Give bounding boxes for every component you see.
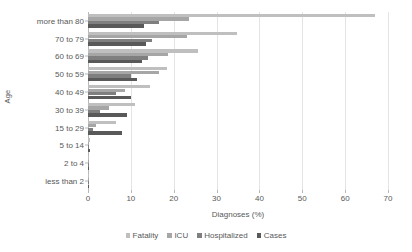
x-axis-tick-label: 30 — [212, 194, 221, 203]
x-axis-tick-label: 50 — [298, 194, 307, 203]
x-axis-tick — [388, 190, 389, 193]
category-row: 30 to 39 — [88, 101, 388, 119]
legend-item-label: Cases — [264, 231, 287, 240]
bar — [88, 24, 144, 27]
legend-swatch-icon — [167, 233, 172, 238]
x-axis-tick — [259, 190, 260, 193]
x-axis-tick — [217, 190, 218, 193]
legend-item-label: Fatality — [133, 231, 159, 240]
category-row: less than 2 — [88, 172, 388, 190]
bar — [88, 96, 131, 99]
y-axis-tick-label: 60 to 69 — [55, 52, 84, 61]
bar — [88, 60, 142, 63]
legend-swatch-icon — [126, 233, 131, 238]
legend-swatch-icon — [197, 233, 202, 238]
legend-item-label: Hospitalized — [204, 231, 248, 240]
x-axis: 010203040506070 — [88, 190, 388, 196]
chart-legend: FatalityICUHospitalizedCases — [0, 231, 412, 240]
bar — [88, 42, 146, 45]
legend-item[interactable]: ICU — [167, 231, 188, 240]
category-row: more than 80 — [88, 12, 388, 30]
legend-item[interactable]: Fatality — [126, 231, 159, 240]
category-row: 50 to 59 — [88, 65, 388, 83]
bar — [88, 78, 137, 81]
y-axis-tick-label: 2 to 4 — [64, 159, 84, 168]
category-row: 70 to 79 — [88, 30, 388, 48]
legend-item[interactable]: Cases — [257, 231, 287, 240]
x-axis-title: Diagnoses (%) — [88, 210, 388, 219]
legend-item[interactable]: Hospitalized — [197, 231, 248, 240]
y-axis-tick-label: 30 to 39 — [55, 105, 84, 114]
x-axis-tick — [302, 190, 303, 193]
category-row: 60 to 69 — [88, 48, 388, 66]
y-axis-tick-label: more than 80 — [37, 16, 84, 25]
y-axis-tick-label: 15 to 29 — [55, 123, 84, 132]
bar-chart: Age more than 8070 to 7960 to 6950 to 59… — [0, 0, 412, 252]
x-axis-tick-label: 0 — [86, 194, 90, 203]
x-axis-tick-label: 20 — [169, 194, 178, 203]
y-axis-tick-label: 50 to 59 — [55, 70, 84, 79]
x-axis-tick — [88, 190, 89, 193]
x-axis-tick-label: 60 — [341, 194, 350, 203]
y-axis-tick-label: 5 to 14 — [60, 141, 84, 150]
y-axis-tick-label: 40 to 49 — [55, 88, 84, 97]
x-axis-tick-label: 10 — [126, 194, 135, 203]
category-row: 5 to 14 — [88, 137, 388, 155]
legend-swatch-icon — [257, 233, 262, 238]
category-row: 15 to 29 — [88, 119, 388, 137]
x-axis-tick — [174, 190, 175, 193]
y-axis-tick-label: less than 2 — [45, 177, 84, 186]
x-axis-tick — [131, 190, 132, 193]
bar — [88, 167, 89, 170]
category-row: 2 to 4 — [88, 154, 388, 172]
gridline — [388, 12, 389, 190]
y-axis-title: Age — [3, 77, 12, 117]
x-axis-tick — [345, 190, 346, 193]
x-axis-tick-label: 40 — [255, 194, 264, 203]
x-axis-tick-label: 70 — [384, 194, 393, 203]
bar — [88, 149, 90, 152]
plot-area: more than 8070 to 7960 to 6950 to 5940 t… — [88, 12, 388, 190]
bar — [88, 113, 127, 116]
bar — [88, 131, 122, 134]
category-row: 40 to 49 — [88, 83, 388, 101]
legend-item-label: ICU — [174, 231, 188, 240]
y-axis-tick-label: 70 to 79 — [55, 34, 84, 43]
bar — [88, 185, 89, 188]
